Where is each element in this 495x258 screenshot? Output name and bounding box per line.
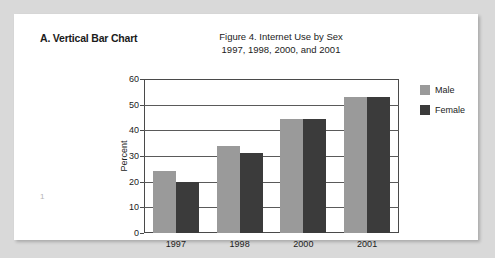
figure-title-line-1: Figure 4. Internet Use by Sex	[166, 31, 396, 44]
x-axis-tick-label: 1998	[230, 239, 250, 249]
chart-legend: MaleFemale	[420, 82, 465, 122]
figure-title: Figure 4. Internet Use by Sex 1997, 1998…	[166, 31, 396, 56]
y-axis-tick-label: 50	[129, 100, 139, 110]
bar-2000-male	[280, 119, 303, 233]
bars-layer	[144, 79, 399, 233]
x-axis-tick-label: 1997	[166, 239, 186, 249]
document-page: 1 A. Vertical Bar Chart Figure 4. Intern…	[14, 14, 478, 240]
bar-chart: Percent 0102030405060 1997199820002001	[144, 79, 399, 233]
legend-label: Male	[435, 85, 455, 95]
legend-label: Female	[435, 105, 465, 115]
x-axis-tick-label: 2001	[357, 239, 377, 249]
legend-swatch-male	[420, 85, 430, 95]
y-axis-tick-mark	[140, 233, 144, 234]
legend-item-male: Male	[420, 82, 465, 97]
bar-2000-female	[303, 119, 326, 233]
y-axis-title: Percent	[119, 140, 129, 171]
y-axis-tick-label: 20	[129, 177, 139, 187]
bar-1998-female	[240, 153, 263, 233]
y-axis-tick-label: 10	[129, 202, 139, 212]
bar-2001-female	[367, 97, 390, 233]
bar-1997-male	[153, 171, 176, 233]
legend-swatch-female	[420, 105, 430, 115]
bar-1997-female	[176, 182, 199, 233]
bar-2001-male	[344, 97, 367, 233]
legend-item-female: Female	[420, 102, 465, 117]
y-axis-tick-label: 60	[129, 74, 139, 84]
y-axis-tick-label: 40	[129, 125, 139, 135]
section-label: A. Vertical Bar Chart	[40, 32, 137, 44]
y-axis-tick-label: 30	[129, 151, 139, 161]
page-number: 1	[40, 192, 44, 201]
y-axis-tick-label: 0	[134, 228, 139, 238]
x-axis-tick-label: 2000	[293, 239, 313, 249]
bar-1998-male	[217, 146, 240, 233]
figure-title-line-2: 1997, 1998, 2000, and 2001	[166, 44, 396, 57]
